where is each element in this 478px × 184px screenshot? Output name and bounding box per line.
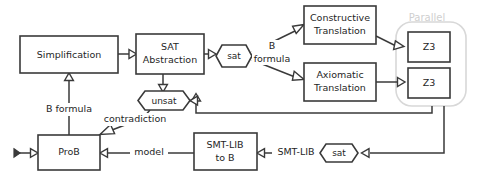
model-label: model xyxy=(134,146,164,157)
b-formula-right-line2: formula xyxy=(254,53,291,64)
node-prob[interactable]: ProB xyxy=(38,135,100,170)
label-contradiction: contradiction xyxy=(96,113,174,126)
edge-constructive-to-z3-top xyxy=(376,36,404,50)
workflow-diagram: Parallel xyxy=(0,0,478,184)
node-smtlib-to-b[interactable]: SMT-LIB to B xyxy=(194,133,257,170)
node-simplification[interactable]: Simplification xyxy=(20,36,118,73)
sat-abstraction-label-line2: Abstraction xyxy=(143,54,197,65)
simplification-label: Simplification xyxy=(37,49,101,60)
smtlib-to-b-label-line2: to B xyxy=(215,152,234,163)
edge-sat-abstraction-to-unsat xyxy=(159,74,168,92)
b-formula-left-label: B formula xyxy=(46,103,92,114)
unsat-token-label: unsat xyxy=(151,96,177,106)
label-b-formula-left: B formula xyxy=(40,103,98,116)
node-sat-token-top[interactable]: sat xyxy=(216,45,252,67)
label-smtlib: SMT-LIB xyxy=(272,146,320,159)
sat-token-bottom-label: sat xyxy=(332,148,346,158)
sat-abstraction-label-line1: SAT xyxy=(161,41,179,52)
prob-label: ProB xyxy=(58,146,80,157)
edge-external-input-to-prob xyxy=(14,149,38,158)
diagram-canvas: Parallel xyxy=(0,0,478,184)
label-model: model xyxy=(130,146,168,159)
edge-axiomatic-to-z3-bottom xyxy=(376,78,405,87)
node-z3-bottom[interactable]: Z3 xyxy=(408,68,450,98)
smtlib-to-b-label-line1: SMT-LIB xyxy=(206,139,243,150)
constructive-translation-label-line1: Constructive xyxy=(310,12,370,23)
sat-token-top-label: sat xyxy=(227,51,241,61)
constructive-translation-label-line2: Translation xyxy=(313,25,366,36)
b-formula-right-line1: B xyxy=(269,40,276,51)
z3-top-label: Z3 xyxy=(423,41,436,52)
smtlib-label: SMT-LIB xyxy=(277,146,314,157)
node-axiomatic-translation[interactable]: Axiomatic Translation xyxy=(304,63,376,101)
edge-sat-abstraction-to-sat-token xyxy=(204,50,216,59)
contradiction-label: contradiction xyxy=(104,113,167,124)
node-sat-abstraction[interactable]: SAT Abstraction xyxy=(136,34,204,74)
edge-simplification-to-sat-abstraction xyxy=(118,50,137,59)
parallel-group-label: Parallel xyxy=(409,12,445,23)
axiomatic-translation-label-line2: Translation xyxy=(313,82,366,93)
axiomatic-translation-label-line1: Axiomatic xyxy=(316,69,363,80)
node-sat-token-bottom[interactable]: sat xyxy=(320,144,358,162)
z3-bottom-label: Z3 xyxy=(423,77,436,88)
node-unsat-token[interactable]: unsat xyxy=(138,91,190,110)
node-z3-top[interactable]: Z3 xyxy=(408,32,450,62)
node-constructive-translation[interactable]: Constructive Translation xyxy=(304,6,376,44)
label-b-formula-right: B formula xyxy=(252,40,296,66)
